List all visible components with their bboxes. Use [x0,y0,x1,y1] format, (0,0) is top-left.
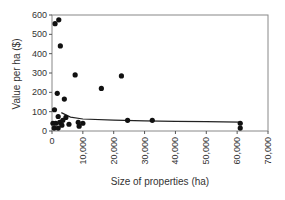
data-point [52,107,57,112]
y-tick-label: 500 [32,29,47,39]
data-point [238,126,243,131]
x-tick-label: 60,000 [232,137,242,165]
y-tick-label: 0 [42,126,47,136]
plot-border [52,15,268,131]
x-tick-label: 40,000 [170,137,180,165]
data-point [56,17,61,22]
x-tick-label: 10,000 [78,137,88,165]
data-point [73,72,78,77]
data-point [77,124,82,129]
x-tick-label: 0 [49,136,54,146]
x-axis: 010,00020,00030,00040,00050,00060,00070,… [49,131,273,165]
x-tick-label: 30,000 [140,137,150,165]
y-tick-label: 300 [32,68,47,78]
data-point [66,122,71,127]
data-point [125,118,130,123]
y-axis-title: Value per ha ($) [11,39,22,110]
data-point [119,73,124,78]
scatter-chart: 0100200300400500600 010,00020,00030,0004… [0,0,285,200]
data-point [59,123,64,128]
data-point [62,97,67,102]
data-points [50,17,243,130]
x-tick-label: 50,000 [201,137,211,165]
data-point [60,118,65,123]
plot-frame [52,15,268,131]
y-axis: 0100200300400500600 [32,10,52,136]
data-point [238,121,243,126]
data-point [99,86,104,91]
y-tick-label: 600 [32,10,47,20]
x-tick-label: 70,000 [263,137,273,165]
y-tick-label: 200 [32,87,47,97]
data-point [58,43,63,48]
x-tick-label: 20,000 [109,137,119,165]
data-point [56,114,61,119]
data-point [55,91,60,96]
x-axis-title: Size of properties (ha) [111,176,209,187]
data-point [52,21,57,26]
data-point [150,118,155,123]
y-tick-label: 100 [32,107,47,117]
y-tick-label: 400 [32,49,47,59]
